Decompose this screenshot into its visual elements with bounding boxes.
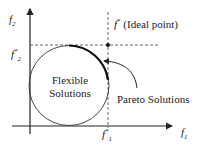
flexible-solutions-label: FlexibleSolutions xyxy=(47,74,93,100)
pareto-solutions-label: Pareto Solutions xyxy=(117,94,189,105)
ideal-point-label: f* (Ideal point) xyxy=(114,18,178,30)
f2-star-tick: f*2 xyxy=(11,48,21,63)
y-axis-label: f2 xyxy=(9,14,16,28)
ideal-point-dot xyxy=(106,43,110,47)
x-axis-label: f1 xyxy=(181,127,188,141)
f1-star-tick: f*1 xyxy=(102,128,112,143)
